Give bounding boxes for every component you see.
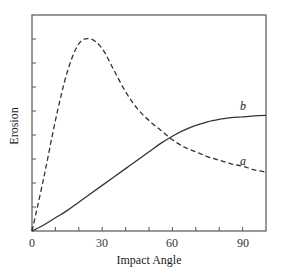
x-tick-label-90: 90: [237, 236, 249, 250]
x-axis-title: Impact Angle: [117, 253, 182, 267]
x-tick-label-30: 30: [96, 236, 108, 250]
y-axis-title: Erosion: [7, 107, 21, 144]
series-a-dashed-line: [32, 39, 266, 231]
plot-frame: [32, 15, 266, 231]
x-tick-label-0: 0: [29, 236, 35, 250]
x-tick-label-60: 60: [166, 236, 178, 250]
erosion-chart: 0 30 60 90 a b Impact Angle Erosion: [0, 0, 282, 273]
x-axis-ticks: [32, 227, 243, 231]
series-b-label: b: [240, 99, 246, 113]
x-axis-tick-labels: 0 30 60 90: [29, 236, 249, 250]
series-b-solid-line: [32, 115, 266, 231]
series-a-label: a: [240, 154, 246, 168]
